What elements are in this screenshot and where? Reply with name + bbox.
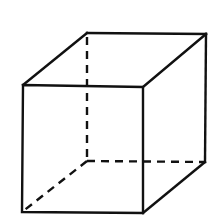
edge-back-top — [87, 33, 206, 34]
edge-bottom-right-diagonal — [143, 162, 205, 213]
edge-top-right-diagonal — [143, 34, 206, 87]
edge-top-left-diagonal — [23, 33, 87, 85]
front-face — [22, 85, 143, 213]
hidden-edge-back-bottom — [87, 161, 205, 162]
hidden-edge-bottom-left-diagonal — [22, 161, 87, 212]
cube-diagram — [0, 0, 217, 215]
edge-back-right-vertical — [205, 34, 206, 162]
